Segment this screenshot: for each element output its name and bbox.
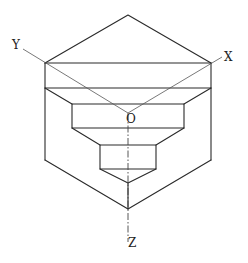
top-face	[45, 15, 211, 63]
y-axis-label: Y	[11, 38, 21, 52]
y-axis-line	[23, 49, 128, 113]
origin-label: O	[126, 112, 136, 126]
z-axis-label: Z	[128, 236, 136, 250]
x-axis-label: X	[224, 50, 233, 64]
isometric-diagram: Y X O Z	[0, 0, 248, 263]
x-axis-line	[128, 57, 222, 113]
